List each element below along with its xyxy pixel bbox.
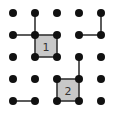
grid-dot[interactable]: [9, 97, 17, 105]
box-owner-label: 2: [65, 85, 72, 98]
grid-dot[interactable]: [97, 9, 105, 17]
grid-dot[interactable]: [53, 31, 61, 39]
grid-dot[interactable]: [97, 97, 105, 105]
grid-dot[interactable]: [31, 97, 39, 105]
grid-dot[interactable]: [97, 31, 105, 39]
grid-dot[interactable]: [53, 9, 61, 17]
box-owner-label: 1: [43, 41, 50, 54]
grid-dot[interactable]: [53, 53, 61, 61]
board-canvas: 12: [0, 0, 117, 123]
grid-dot[interactable]: [53, 75, 61, 83]
grid-dot[interactable]: [31, 75, 39, 83]
grid-dot[interactable]: [31, 9, 39, 17]
dots-and-boxes-board[interactable]: 12: [0, 0, 117, 123]
grid-dot[interactable]: [9, 75, 17, 83]
grid-dot[interactable]: [97, 53, 105, 61]
grid-dot[interactable]: [9, 31, 17, 39]
grid-dot[interactable]: [31, 31, 39, 39]
grid-dot[interactable]: [75, 9, 83, 17]
grid-dot[interactable]: [75, 53, 83, 61]
grid-dot[interactable]: [75, 31, 83, 39]
grid-dot[interactable]: [75, 97, 83, 105]
grid-dot[interactable]: [9, 9, 17, 17]
grid-dot[interactable]: [97, 75, 105, 83]
grid-dot[interactable]: [31, 53, 39, 61]
grid-dot[interactable]: [9, 53, 17, 61]
grid-dot[interactable]: [53, 97, 61, 105]
grid-dot[interactable]: [75, 75, 83, 83]
